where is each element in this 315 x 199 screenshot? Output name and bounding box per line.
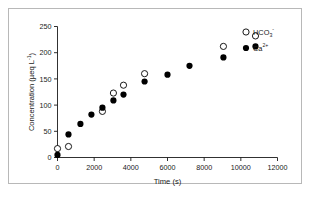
data-point	[54, 145, 60, 151]
data-point	[186, 63, 192, 69]
scatter-plot: 0200040006000800010000120000501001502002…	[0, 0, 315, 199]
x-tick-label: 12000	[268, 163, 288, 172]
x-axis-title: Time (s)	[154, 177, 182, 186]
series-ca2	[54, 43, 258, 158]
data-point	[220, 43, 226, 49]
legend-label-hco3: HCO3-	[253, 26, 274, 37]
x-tick-label: 8000	[196, 163, 212, 172]
x-tick-label: 0	[56, 163, 60, 172]
data-point	[77, 121, 83, 127]
figure-container: 0200040006000800010000120000501001502002…	[0, 0, 315, 199]
y-tick-label: 0	[48, 153, 52, 162]
y-tick-label: 50	[44, 127, 52, 136]
data-point	[141, 71, 147, 77]
legend-marker-hco3	[243, 29, 249, 35]
series-hco3	[54, 33, 258, 152]
x-tick-label: 2000	[86, 163, 102, 172]
y-tick-label: 200	[40, 48, 52, 57]
x-tick-label: 10000	[231, 163, 251, 172]
data-point	[54, 152, 60, 158]
data-point	[120, 82, 126, 88]
legend-marker-ca2	[243, 45, 249, 51]
data-point	[220, 54, 226, 60]
data-point	[99, 105, 105, 111]
data-point	[110, 90, 116, 96]
data-point	[110, 97, 116, 103]
y-axis-title: Concentration (µeq L-1)	[26, 52, 36, 131]
data-point	[65, 131, 71, 137]
y-tick-label: 250	[40, 22, 52, 31]
y-tick-label: 100	[40, 101, 52, 110]
x-tick-label: 6000	[160, 163, 176, 172]
y-axis-title-text: Concentration (µeq L-1)	[26, 52, 36, 131]
data-point	[164, 72, 170, 78]
data-point	[120, 92, 126, 98]
data-point	[141, 78, 147, 84]
x-tick-label: 4000	[123, 163, 139, 172]
y-tick-label: 150	[40, 75, 52, 84]
legend-label-ca2: Ca2+	[253, 42, 268, 52]
data-point	[65, 143, 71, 149]
data-point	[88, 111, 94, 117]
